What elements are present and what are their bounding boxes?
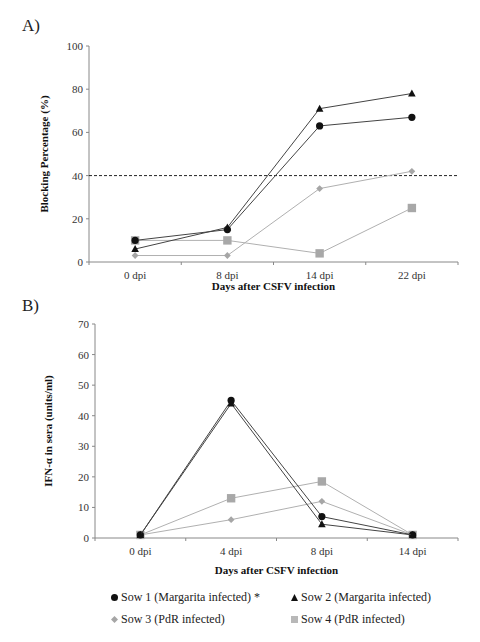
y-tick-label: 40 <box>78 410 90 422</box>
square-marker-icon <box>290 615 299 624</box>
diamond-marker-icon <box>110 615 119 624</box>
chart-b-ifn-alpha: 0102030405060700 dpi4 dpi8 dpi14 dpiDays… <box>0 0 480 600</box>
diamond-marker-icon <box>228 516 235 523</box>
series-1 <box>137 397 416 539</box>
x-axis-title: Days after CSFV infection <box>215 564 338 576</box>
legend-item-sow-2: Sow 2 (Margarita infected) <box>290 590 470 605</box>
y-tick-label: 0 <box>84 532 90 544</box>
legend-label: Sow 1 (Margarita infected) * <box>121 590 260 605</box>
legend-item-sow-3: Sow 3 (PdR infected) <box>110 612 290 627</box>
legend-label: Sow 4 (PdR infected) <box>301 612 405 627</box>
square-marker-icon <box>318 477 326 485</box>
legend-item-sow-1: Sow 1 (Margarita infected) * <box>110 590 290 605</box>
series-3 <box>137 498 416 538</box>
square-marker-icon <box>227 494 235 502</box>
y-tick-label: 50 <box>78 379 90 391</box>
series-2 <box>137 399 417 537</box>
x-tick-label: 0 dpi <box>129 545 151 557</box>
y-tick-label: 60 <box>78 349 90 361</box>
diamond-marker-icon <box>318 498 325 505</box>
y-tick-label: 10 <box>78 501 90 513</box>
triangle-marker-icon <box>290 593 299 602</box>
series-4 <box>136 477 417 539</box>
chart-legend: Sow 1 (Margarita infected) * Sow 2 (Marg… <box>110 586 470 630</box>
circle-marker-icon <box>110 593 119 602</box>
legend-label: Sow 2 (Margarita infected) <box>301 590 431 605</box>
x-tick-label: 8 dpi <box>311 545 333 557</box>
y-tick-label: 70 <box>78 318 90 330</box>
x-tick-label: 14 dpi <box>399 545 427 557</box>
legend-label: Sow 3 (PdR infected) <box>121 612 225 627</box>
x-tick-label: 4 dpi <box>220 545 242 557</box>
legend-item-sow-4: Sow 4 (PdR infected) <box>290 612 470 627</box>
circle-marker-icon <box>318 513 325 520</box>
y-tick-label: 30 <box>78 440 90 452</box>
y-axis-title: IFN-α in sera (units/ml) <box>42 375 55 487</box>
y-tick-label: 20 <box>78 471 90 483</box>
